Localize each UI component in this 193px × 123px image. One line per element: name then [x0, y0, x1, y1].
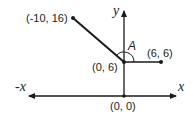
- x-axis-label: x: [177, 79, 185, 94]
- point-0-6: [122, 60, 126, 64]
- point-neg10-16: [71, 16, 75, 20]
- point-origin: [122, 94, 126, 98]
- neg-x-axis-label: -x: [15, 79, 27, 94]
- label-0-6: (0, 6): [92, 61, 118, 73]
- angle-label: A: [127, 39, 136, 53]
- y-axis-label: y: [111, 3, 120, 18]
- label-6-6: (6, 6): [147, 47, 173, 59]
- diagram-svg: y x -x (-10, 16) (0, 6) (6, 6) (0, 0) A: [0, 0, 193, 123]
- point-6-6: [159, 60, 163, 64]
- label-origin: (0, 0): [110, 100, 136, 112]
- label-neg10-16: (-10, 16): [26, 12, 68, 24]
- angle-diagram: y x -x (-10, 16) (0, 6) (6, 6) (0, 0) A: [0, 0, 193, 123]
